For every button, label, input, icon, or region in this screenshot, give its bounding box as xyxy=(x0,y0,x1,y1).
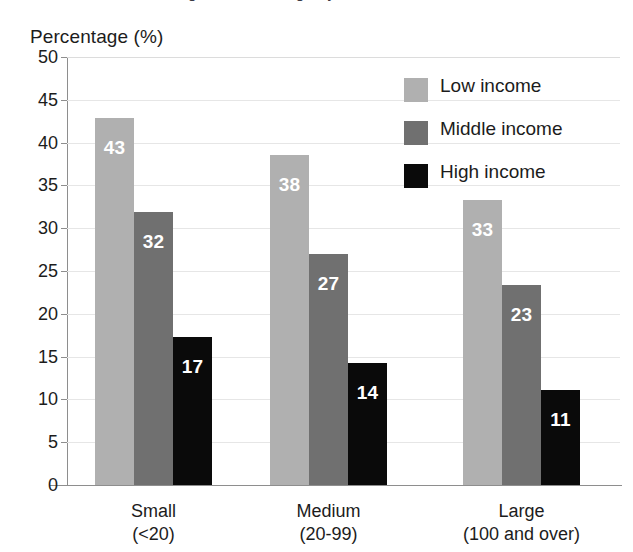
y-tick-label: 45 xyxy=(14,91,58,109)
cut-off-title: Figure: Percentage by size and income xyxy=(0,0,633,4)
bar-value-label: 33 xyxy=(463,220,502,239)
bar-high-income-medium-20-99: 14 xyxy=(348,363,387,485)
y-axis-title: Percentage (%) xyxy=(30,26,163,48)
y-tick-label: 30 xyxy=(14,219,58,237)
category-range: (100 and over) xyxy=(412,523,632,546)
bar-middle-income-small-20: 32 xyxy=(134,212,173,485)
y-tick-label: 25 xyxy=(14,262,58,280)
y-tick-label: 50 xyxy=(14,48,58,66)
legend-swatch-high-income xyxy=(404,164,428,188)
y-tick-label: 35 xyxy=(14,176,58,194)
bar-low-income-medium-20-99: 38 xyxy=(270,155,309,485)
bar-middle-income-medium-20-99: 27 xyxy=(309,254,348,485)
bar-high-income-small-20: 17 xyxy=(173,337,212,485)
x-category-label-medium: Medium(20-99) xyxy=(219,500,439,545)
y-tick-label: 10 xyxy=(14,390,58,408)
category-name: Large xyxy=(412,500,632,523)
bar-value-label: 38 xyxy=(270,175,309,194)
x-category-label-large: Large(100 and over) xyxy=(412,500,632,545)
y-tick-label: 5 xyxy=(14,433,58,451)
legend-label-low-income: Low income xyxy=(440,75,541,97)
bar-value-label: 14 xyxy=(348,383,387,402)
bar-value-label: 23 xyxy=(502,305,541,324)
y-tick-label: 20 xyxy=(14,305,58,323)
bar-value-label: 27 xyxy=(309,274,348,293)
bar-value-label: 11 xyxy=(541,410,580,429)
y-tick-label: 15 xyxy=(14,348,58,366)
y-tick-mark xyxy=(61,485,67,486)
bar-high-income-large-100-and-over: 11 xyxy=(541,390,580,485)
bar-value-label: 17 xyxy=(173,357,212,376)
category-range: (20-99) xyxy=(219,523,439,546)
bar-middle-income-large-100-and-over: 23 xyxy=(502,285,541,485)
legend-label-middle-income: Middle income xyxy=(440,118,563,140)
bar-chart: Figure: Percentage by size and income Pe… xyxy=(0,0,633,552)
legend-swatch-middle-income xyxy=(404,121,428,145)
legend-swatch-low-income xyxy=(404,78,428,102)
category-name: Medium xyxy=(219,500,439,523)
bar-low-income-small-20: 43 xyxy=(95,118,134,485)
x-axis-line xyxy=(50,485,622,486)
bar-value-label: 32 xyxy=(134,232,173,251)
y-tick-label: 0 xyxy=(14,476,58,494)
y-tick-label: 40 xyxy=(14,134,58,152)
legend-label-high-income: High income xyxy=(440,161,546,183)
bar-low-income-large-100-and-over: 33 xyxy=(463,200,502,485)
bar-value-label: 43 xyxy=(95,138,134,157)
